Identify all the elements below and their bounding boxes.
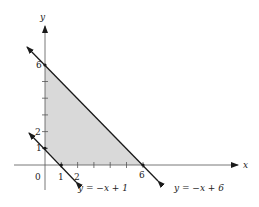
point-0-6	[43, 63, 46, 66]
x-tick-label-1: 1	[58, 172, 64, 182]
origin-label: 0	[35, 172, 41, 182]
x-tick-label-2: 2	[74, 172, 80, 182]
y-axis-label: y	[39, 12, 46, 22]
point-1-0	[60, 163, 63, 166]
point-6-0	[141, 163, 144, 166]
x-tick-label-6: 6	[139, 170, 145, 180]
x-axis-label: x	[243, 160, 248, 170]
point-0-1	[43, 147, 46, 150]
graph: y x 0 1 2 6 1 2 6 y = −x + 1 y = −x + 6	[0, 0, 259, 207]
line-label-neg-x-plus-6: y = −x + 6	[173, 183, 224, 193]
y-tick-label-2: 2	[35, 127, 41, 137]
y-tick-label-6: 6	[36, 60, 42, 70]
y-tick-label-1: 1	[36, 143, 42, 153]
line-label-neg-x-plus-1: y = −x + 1	[77, 183, 128, 193]
